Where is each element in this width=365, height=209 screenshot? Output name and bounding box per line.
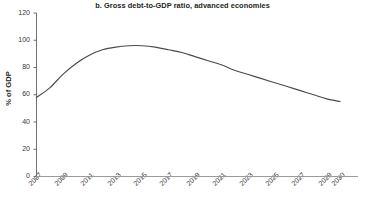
chart-figure: b. Gross debt-to-GDP ratio, advanced eco… — [0, 0, 365, 209]
data-series-line — [37, 46, 341, 102]
plot-area — [0, 0, 365, 209]
